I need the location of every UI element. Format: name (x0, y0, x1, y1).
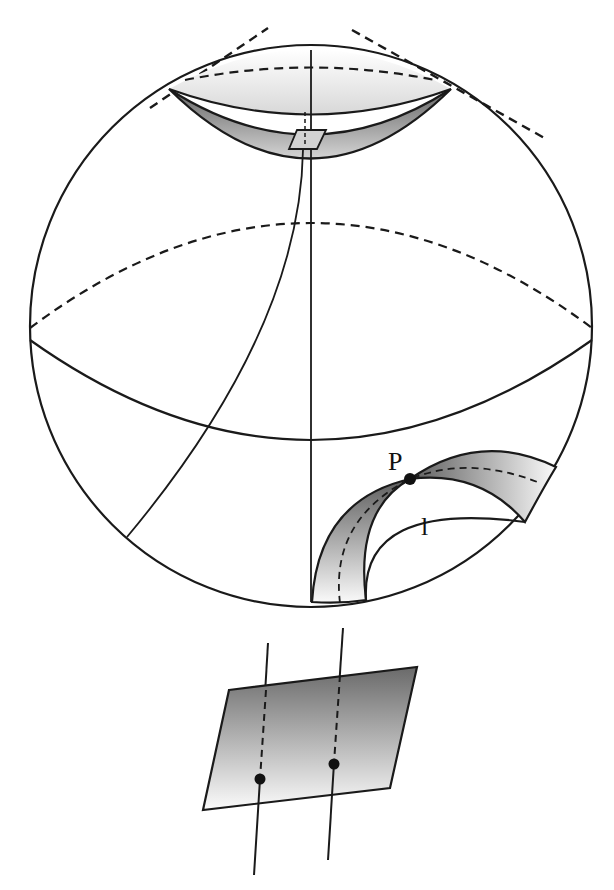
meridian-curve (127, 150, 303, 537)
geodesic-band (312, 451, 556, 603)
diagram-canvas: P l (0, 0, 614, 890)
point-p-marker (404, 473, 416, 485)
parallelogram-patch (289, 112, 326, 149)
shaded-plane (203, 667, 417, 810)
intersection-point-left (255, 774, 266, 785)
intersection-point-right (329, 759, 340, 770)
line-l-label: l (421, 512, 428, 541)
plane-figure (203, 628, 417, 875)
point-p-label: P (388, 447, 402, 476)
